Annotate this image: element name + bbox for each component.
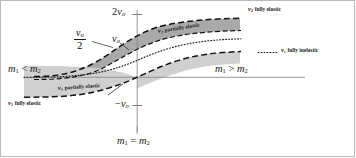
label-v0-sub: o xyxy=(117,37,120,44)
m1-eq-left-sub: 1 xyxy=(125,139,128,146)
legend-item-vc-fully-inelastic: vc fully inelastic xyxy=(281,47,318,54)
v2-fully-elastic-name: fully elastic xyxy=(255,6,281,12)
m1-eq-right-sub: 2 xyxy=(147,139,150,146)
fraction-denominator: 2 xyxy=(74,40,86,51)
xaxis-label-m1-lt-m2: m1 < m2 xyxy=(8,64,41,75)
ytick-label-neg-v0: −vo xyxy=(115,99,129,110)
ytick-2v0-sub: o xyxy=(122,10,125,17)
ytick-neg-v0-sub: o xyxy=(126,102,129,109)
v1-fully-elastic-sub: 1 xyxy=(11,102,13,107)
m1-lt-right-var: m xyxy=(30,63,38,74)
fraction-numerator: vo xyxy=(74,27,86,38)
m1-gt-left-sub: 1 xyxy=(223,67,226,74)
legend-vc-sub: c xyxy=(284,49,286,54)
m1-lt-relation: < xyxy=(21,63,27,74)
v2-fully-elastic-sub: 2 xyxy=(251,8,253,13)
v1-partially-elastic-name: partially elastic xyxy=(64,82,100,90)
m1-lt-left-var: m xyxy=(8,63,16,74)
m1-lt-right-sub: 2 xyxy=(38,67,41,74)
ytick-label-2v0: 2vo xyxy=(112,7,125,18)
v2-partially-elastic-sub: 2 xyxy=(161,29,164,34)
collision-velocity-figure: 2vo −vo vo 2 vo m1 < m2 m1 > m2 m1 = m2 … xyxy=(0,0,356,158)
m1-gt-right-var: m xyxy=(237,63,245,74)
fraction-label-v0-over-2: vo 2 xyxy=(74,27,86,51)
m1-gt-relation: > xyxy=(228,63,234,74)
m1-eq-left-var: m xyxy=(117,135,125,146)
m1-eq-right-var: m xyxy=(139,135,147,146)
v1-partially-elastic-sub: 1 xyxy=(61,87,63,92)
lower-shaded-band xyxy=(24,52,240,98)
curve-label-v2-fully-elastic: v2 fully elastic xyxy=(248,6,281,13)
leader-line-v0-half xyxy=(92,42,113,48)
xaxis-label-m1-gt-m2: m1 > m2 xyxy=(215,64,248,75)
v1-fully-elastic-name: fully elastic xyxy=(15,100,41,106)
curve-label-v1-fully-elastic: v1 fully elastic xyxy=(8,100,41,107)
m1-gt-left-var: m xyxy=(215,63,223,74)
xaxis-label-m1-eq-m2: m1 = m2 xyxy=(117,136,150,147)
label-v0: vo xyxy=(112,34,120,45)
m1-eq-relation: = xyxy=(130,135,136,146)
m1-lt-left-sub: 1 xyxy=(16,67,19,74)
m1-gt-right-sub: 2 xyxy=(245,67,248,74)
legend-vc-name: fully inelastic xyxy=(287,47,318,53)
fraction-numerator-sub: o xyxy=(80,31,83,38)
